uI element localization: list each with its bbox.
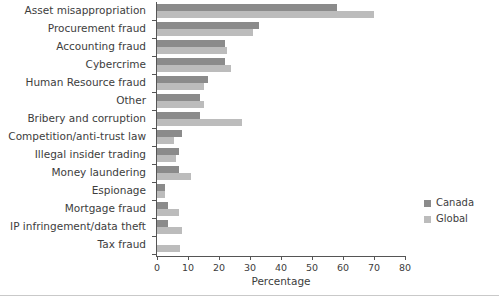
category-label: Tax fraud (98, 239, 146, 250)
category-label: Human Resource fraud (26, 77, 146, 88)
bar-global (157, 137, 174, 144)
x-axis-tick (281, 256, 282, 260)
x-axis-tick (250, 256, 251, 260)
x-axis-tick (188, 256, 189, 260)
y-axis-tick (152, 254, 156, 255)
bar-global (157, 191, 165, 198)
y-axis-tick (152, 92, 156, 93)
x-axis-tick-label: 40 (275, 262, 287, 273)
bar-global (157, 11, 374, 18)
category-label: Espionage (92, 185, 146, 196)
x-axis-tick-label: 50 (306, 262, 318, 273)
bar-canada (157, 76, 208, 83)
legend-label: Canada (436, 196, 474, 210)
x-axis-tick-label: 30 (244, 262, 256, 273)
category-label: Accounting fraud (56, 41, 146, 52)
category-axis-labels: Asset misappropriationProcurement fraudA… (0, 2, 152, 254)
legend-label: Global (436, 212, 468, 226)
y-axis-tick (152, 38, 156, 39)
x-axis-tick (312, 256, 313, 260)
y-axis-tick (152, 164, 156, 165)
bar-canada (157, 112, 200, 119)
legend-swatch-icon (424, 200, 431, 207)
category-label: Mortgage fraud (65, 203, 146, 214)
bar-global (157, 29, 253, 36)
y-axis-tick (152, 110, 156, 111)
bar-canada (157, 130, 182, 137)
x-axis-tick (343, 256, 344, 260)
bar-canada (157, 58, 225, 65)
bar-global (157, 119, 242, 126)
y-axis-tick (152, 236, 156, 237)
bar-global (157, 173, 191, 180)
bar-global (157, 83, 204, 90)
x-axis-tick-label: 70 (368, 262, 380, 273)
x-axis-tick (219, 256, 220, 260)
y-axis-tick (152, 146, 156, 147)
legend-item: Global (424, 212, 474, 226)
x-axis-tick (405, 256, 406, 260)
bar-canada (157, 94, 200, 101)
category-label: Other (116, 95, 146, 106)
category-label: Money laundering (52, 167, 147, 178)
y-axis-tick (152, 182, 156, 183)
bar-global (157, 101, 204, 108)
y-axis-tick (152, 20, 156, 21)
y-axis-tick (152, 128, 156, 129)
bar-global (157, 47, 227, 54)
bar-canada (157, 220, 168, 227)
bar-global (157, 155, 176, 162)
bar-canada (157, 40, 225, 47)
category-label: Asset misappropriation (25, 5, 146, 16)
bar-canada (157, 202, 168, 209)
category-label: Competition/anti-trust law (8, 131, 146, 142)
y-axis-tick (152, 200, 156, 201)
y-axis-tick (152, 218, 156, 219)
bar-global (157, 209, 179, 216)
x-axis-tick-label: 20 (213, 262, 225, 273)
bar-chart: Asset misappropriationProcurement fraudA… (0, 0, 499, 296)
bar-canada (157, 184, 165, 191)
bar-canada (157, 166, 179, 173)
bar-global (157, 227, 182, 234)
bar-global (157, 65, 231, 72)
category-label: Bribery and corruption (27, 113, 146, 124)
plot-area (157, 2, 405, 254)
legend-item: Canada (424, 196, 474, 210)
x-axis-tick-label: 80 (399, 262, 411, 273)
category-label: Illegal insider trading (35, 149, 146, 160)
x-axis-tick (157, 256, 158, 260)
category-label: Cybercrime (86, 59, 146, 70)
x-axis-tick-label: 10 (182, 262, 194, 273)
bar-canada (157, 22, 259, 29)
category-label: IP infringement/data theft (10, 221, 146, 232)
bar-canada (157, 148, 179, 155)
category-label: Procurement fraud (48, 23, 146, 34)
x-axis-title: Percentage (157, 275, 405, 287)
y-axis-tick (152, 56, 156, 57)
x-axis-tick-label: 0 (154, 262, 160, 273)
x-axis-tick-label: 60 (337, 262, 349, 273)
bar-canada (157, 4, 337, 11)
y-axis-tick (152, 74, 156, 75)
x-axis-tick (374, 256, 375, 260)
chart-legend: CanadaGlobal (424, 196, 474, 228)
bar-global (157, 245, 180, 252)
legend-swatch-icon (424, 216, 431, 223)
